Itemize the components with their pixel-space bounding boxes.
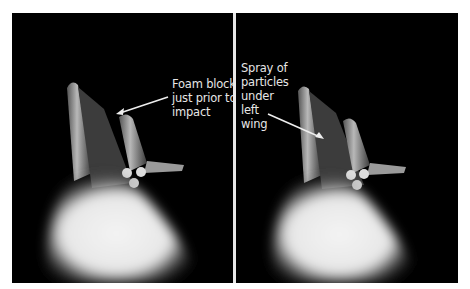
caption-foam-block: Foam block just prior to impact [172, 77, 233, 119]
pointer-arrow-left [120, 97, 168, 113]
shuttle-launch-image [12, 13, 233, 283]
photo-panel-left: Foam block just prior to impact [12, 13, 233, 283]
shuttle-launch-image [236, 13, 458, 283]
caption-particle-spray: Spray of particles under left wing [241, 61, 289, 131]
photo-panel-right: Spray of particles under left wing [236, 13, 458, 283]
